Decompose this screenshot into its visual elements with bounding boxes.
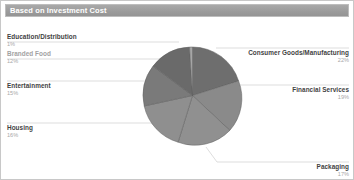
callout-consumer-goods-manufacturing[interactable]: Consumer Goods/Manufacturing 22% bbox=[248, 49, 349, 64]
page-title: Based on Investment Cost bbox=[10, 6, 107, 15]
callout-category-label: Housing bbox=[7, 124, 33, 132]
callout-packaging[interactable]: Packaging 17% bbox=[317, 163, 349, 178]
callout-education-distribution[interactable]: Education/Distribution 1% bbox=[7, 33, 77, 48]
pie-chart-area: Education/Distribution 1% Branded Food 1… bbox=[1, 19, 354, 180]
chart-panel: Based on Investment Cost bbox=[0, 0, 354, 180]
callout-category-label: Entertainment bbox=[7, 82, 51, 90]
panel-header-bar: Based on Investment Cost bbox=[5, 4, 349, 17]
callout-percent-label: 16% bbox=[7, 132, 33, 139]
callout-entertainment[interactable]: Entertainment 15% bbox=[7, 82, 51, 97]
callout-branded-food[interactable]: Branded Food 12% bbox=[7, 50, 51, 65]
callout-percent-label: 17% bbox=[317, 171, 349, 178]
callout-percent-label: 22% bbox=[248, 57, 349, 64]
callout-percent-label: 19% bbox=[292, 94, 349, 101]
callout-financial-services[interactable]: Financial Services 19% bbox=[292, 86, 349, 101]
callout-housing[interactable]: Housing 16% bbox=[7, 124, 33, 139]
callout-percent-label: 12% bbox=[7, 58, 51, 65]
callout-category-label: Packaging bbox=[317, 163, 349, 171]
callout-category-label: Branded Food bbox=[7, 50, 51, 58]
callout-category-label: Financial Services bbox=[292, 86, 349, 94]
callout-category-label: Consumer Goods/Manufacturing bbox=[248, 49, 349, 57]
leader-line-packaging-elbow bbox=[206, 147, 217, 162]
pie-slices bbox=[143, 47, 242, 145]
callout-category-label: Education/Distribution bbox=[7, 33, 77, 41]
callout-percent-label: 1% bbox=[7, 41, 77, 48]
callout-percent-label: 15% bbox=[7, 90, 51, 97]
